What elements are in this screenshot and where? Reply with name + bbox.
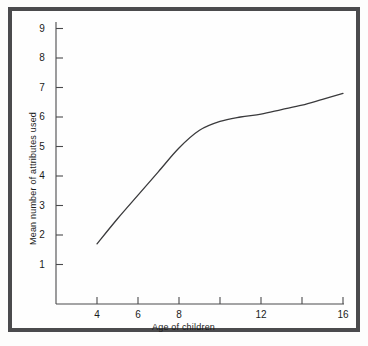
x-axis-ticks: [97, 297, 343, 304]
x-tick-label: 12: [253, 309, 269, 320]
x-tick-label: 4: [89, 309, 105, 320]
y-tick-label: 9: [36, 23, 48, 34]
y-tick-label: 8: [36, 52, 48, 63]
figure-container: 9 8 7 6 5 4 3 2 1 4 6 8 12 16 Mean numbe…: [0, 0, 368, 346]
x-tick-label: 8: [171, 309, 187, 320]
y-axis-ticks: [56, 29, 63, 265]
y-tick-label: 1: [36, 259, 48, 270]
y-axis-title: Mean number of attributes used: [28, 112, 38, 245]
x-tick-label: 16: [335, 309, 351, 320]
line-chart-plot: [0, 0, 368, 346]
x-tick-label: 6: [130, 309, 146, 320]
x-axis-title: Age of children: [152, 322, 215, 332]
data-series-line: [97, 93, 343, 243]
y-tick-label: 7: [36, 82, 48, 93]
